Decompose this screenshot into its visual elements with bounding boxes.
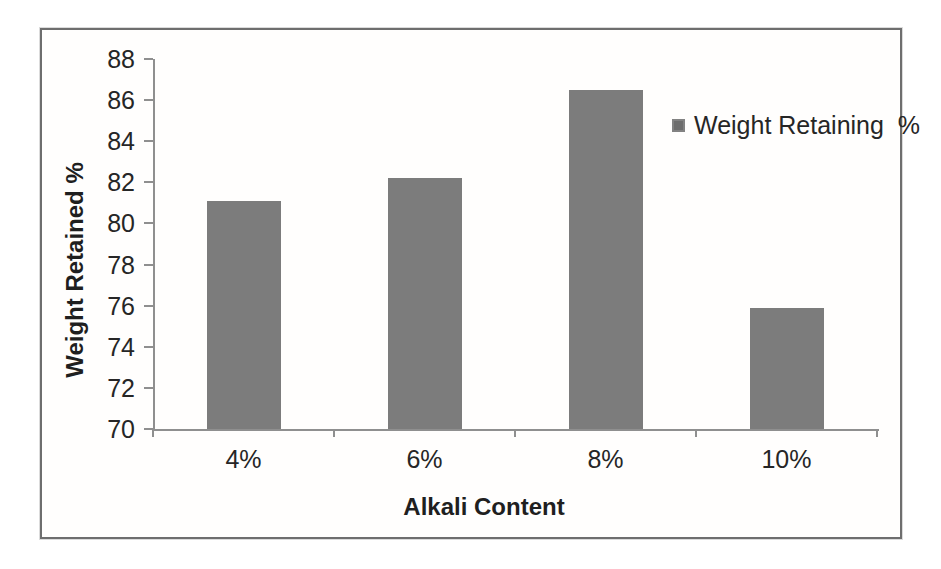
y-tick-mark — [144, 387, 153, 389]
y-tick-label: 70 — [89, 417, 135, 442]
x-tick-label: 10% — [737, 447, 837, 472]
y-tick-label: 86 — [89, 88, 135, 113]
x-axis-title: Alkali Content — [403, 493, 564, 521]
y-tick-label: 78 — [89, 253, 135, 278]
y-axis-line — [153, 59, 155, 431]
y-tick-label: 84 — [89, 129, 135, 154]
x-tick-label: 6% — [375, 447, 475, 472]
bar-4% — [207, 201, 281, 429]
bar-8% — [569, 90, 643, 429]
y-tick-mark — [144, 264, 153, 266]
bar-10% — [750, 308, 824, 429]
y-tick-mark — [144, 346, 153, 348]
y-tick-label: 74 — [89, 335, 135, 360]
legend-swatch-icon — [672, 119, 685, 132]
y-axis-title: Weight Retained % — [61, 162, 89, 378]
y-tick-label: 76 — [89, 294, 135, 319]
y-tick-label: 82 — [89, 170, 135, 195]
y-tick-mark — [144, 58, 153, 60]
legend: Weight Retaining % — [672, 110, 920, 140]
y-tick-mark — [144, 99, 153, 101]
x-axis-line — [153, 429, 879, 431]
y-tick-label: 80 — [89, 211, 135, 236]
y-tick-mark — [144, 305, 153, 307]
scanned-figure-page: Weight Retained % 707274767880828486884%… — [0, 0, 941, 569]
legend-label: Weight Retaining % — [694, 110, 920, 140]
y-tick-label: 72 — [89, 376, 135, 401]
y-tick-label: 88 — [89, 47, 135, 72]
x-tick-label: 8% — [556, 447, 656, 472]
x-tick-label: 4% — [194, 447, 294, 472]
y-tick-mark — [144, 181, 153, 183]
y-tick-mark — [144, 222, 153, 224]
bar-6% — [388, 178, 462, 429]
chart-frame: Weight Retained % 707274767880828486884%… — [40, 28, 902, 539]
y-tick-mark — [144, 140, 153, 142]
